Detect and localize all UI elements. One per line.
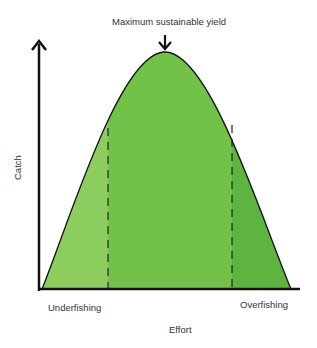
x-axis-label: Effort xyxy=(169,324,192,335)
underfishing-label: Underfishing xyxy=(48,302,101,313)
curve-fill xyxy=(40,40,302,290)
overfishing-label: Overfishing xyxy=(240,299,288,310)
msy-label: Maximum sustainable yield xyxy=(112,16,226,27)
y-axis-label: Catch xyxy=(12,155,23,180)
yield-curve-diagram xyxy=(0,0,317,348)
